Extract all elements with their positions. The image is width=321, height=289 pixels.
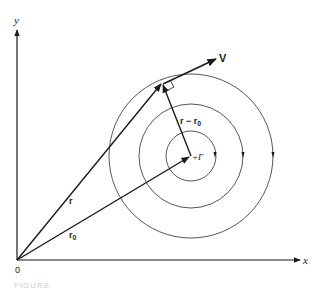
flow-direction-arrows [214, 152, 275, 158]
vector-r-label: r [69, 196, 73, 206]
vector-r0 [17, 157, 189, 260]
vector-r0-label: r0 [69, 230, 77, 241]
vector-r-minus-r0-label: r − r0 [180, 116, 201, 127]
origin-label: 0 [15, 265, 20, 275]
vector-V-label: V [219, 52, 227, 64]
vector-V [163, 59, 216, 84]
circulation-label: +Γ [192, 152, 204, 162]
x-axis-label: x [302, 254, 308, 266]
axes [17, 30, 300, 260]
arrow-down-icon [272, 152, 275, 158]
vector-r [17, 84, 161, 260]
vectors [17, 59, 216, 260]
arrow-down-icon [242, 152, 245, 158]
y-axis-label: y [13, 14, 19, 26]
figure-caption: FIGURE [14, 281, 50, 289]
diagram-canvas: y x 0 r r0 r − r0 V +Γ [0, 0, 321, 289]
